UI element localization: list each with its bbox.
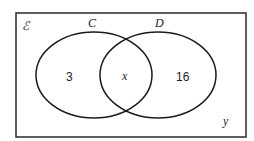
d-only-value: 16 [176,70,190,84]
set-d-label: D [154,16,164,30]
c-only-value: 3 [66,70,73,84]
universal-set-rectangle [16,13,246,137]
universal-set-label: ℰ [22,19,31,33]
intersection-value: x [121,69,128,83]
set-d-circle [100,32,216,118]
set-c-circle [36,32,152,118]
venn-diagram: ℰ C D 3 x 16 y [0,0,254,141]
outside-value: y [222,114,229,128]
set-c-label: C [88,16,97,30]
